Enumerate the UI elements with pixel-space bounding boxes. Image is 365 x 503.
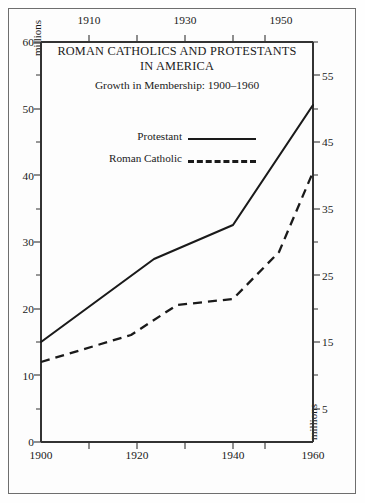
series-line-roman-catholic (41, 172, 313, 362)
series-line-protestant (41, 105, 313, 342)
plot-area (0, 0, 365, 503)
x-ticks-top (89, 35, 265, 42)
x-ticks-bottom (89, 442, 265, 449)
y-major-ticks-left (34, 42, 41, 442)
chart-figure: ROMAN CATHOLICS AND PROTESTANTS IN AMERI… (0, 0, 365, 503)
